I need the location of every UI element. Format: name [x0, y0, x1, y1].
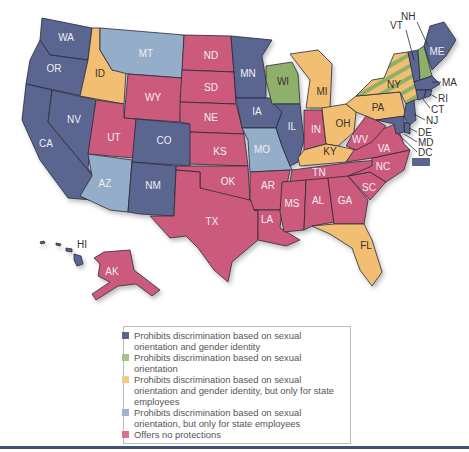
- label-SC: SC: [362, 182, 376, 193]
- legend-swatch-icon: [122, 332, 129, 339]
- label-NC: NC: [376, 161, 390, 172]
- label-TN: TN: [312, 167, 325, 178]
- label-CT: CT: [431, 104, 444, 115]
- label-WI: WI: [277, 76, 289, 87]
- label-PA: PA: [372, 102, 385, 113]
- label-KS: KS: [213, 146, 227, 157]
- label-MO: MO: [254, 144, 270, 155]
- label-CA: CA: [39, 138, 53, 149]
- label-MN: MN: [240, 68, 256, 79]
- label-ME: ME: [430, 46, 445, 57]
- map-legend: Prohibits discrimination based on sexual…: [123, 326, 351, 444]
- label-SD: SD: [204, 82, 218, 93]
- label-MI: MI: [316, 86, 327, 97]
- label-NJ: NJ: [426, 115, 438, 126]
- legend-item-orientation-only: Prohibits discrimination based on sexual…: [142, 352, 346, 374]
- label-NY: NY: [387, 79, 401, 90]
- legend-label: Offers no protections: [134, 429, 221, 440]
- label-WY: WY: [145, 92, 161, 103]
- legend-label: Prohibits discrimination based on sexual…: [134, 374, 346, 407]
- label-UT: UT: [107, 132, 120, 143]
- label-CO: CO: [157, 135, 172, 146]
- legend-swatch-icon: [122, 431, 129, 438]
- label-OK: OK: [221, 176, 236, 187]
- label-AR: AR: [261, 180, 275, 191]
- state-AK: [92, 250, 160, 300]
- label-LA: LA: [261, 214, 274, 225]
- legend-label: Prohibits discrimination based on sexual…: [134, 330, 346, 352]
- label-OR: OR: [47, 63, 62, 74]
- label-MT: MT: [139, 48, 153, 59]
- legend-label: Prohibits discrimination based on sexual…: [134, 352, 346, 374]
- label-GA: GA: [338, 195, 353, 206]
- legend-item-orientation-and-gender: Prohibits discrimination based on sexual…: [142, 330, 346, 352]
- legend-item-no-protections: Offers no protections: [142, 429, 346, 440]
- label-RI: RI: [438, 93, 448, 104]
- label-IA: IA: [252, 106, 262, 117]
- legend-label: Prohibits discrimination based on sexual…: [134, 407, 346, 429]
- label-AK: AK: [105, 266, 119, 277]
- label-IL: IL: [288, 121, 297, 132]
- label-AZ: AZ: [99, 178, 112, 189]
- legend-item-state-employees-orientation-gender: Prohibits discrimination based on sexual…: [142, 374, 346, 407]
- label-HI: HI: [77, 239, 87, 250]
- state-NJ: [404, 100, 416, 126]
- label-IN: IN: [311, 124, 321, 135]
- legend-item-state-employees-orientation: Prohibits discrimination based on sexual…: [142, 407, 346, 429]
- legend-swatch-icon: [122, 354, 129, 361]
- label-NE: NE: [204, 112, 218, 123]
- label-OH: OH: [336, 118, 351, 129]
- label-FL: FL: [360, 240, 372, 251]
- label-AL: AL: [312, 195, 325, 206]
- label-VA: VA: [378, 143, 391, 154]
- legend-swatch-icon: [122, 409, 129, 416]
- legend-swatch-icon: [122, 376, 129, 383]
- label-MS: MS: [285, 198, 300, 209]
- dc-swatch: [412, 158, 430, 166]
- state-FL: [312, 224, 382, 286]
- label-WV: WV: [352, 134, 368, 145]
- bottom-divider: [0, 446, 469, 449]
- label-NV: NV: [67, 114, 81, 125]
- label-KY: KY: [323, 146, 337, 157]
- label-WA: WA: [58, 32, 74, 43]
- label-NM: NM: [145, 180, 161, 191]
- label-DC: DC: [418, 147, 432, 158]
- label-MA: MA: [442, 77, 457, 88]
- label-NH: NH: [401, 11, 415, 22]
- label-ID: ID: [95, 68, 105, 79]
- label-ND: ND: [204, 50, 218, 61]
- us-state-map: WA OR CA NV ID MT WY UT CO AZ NM ND SD N…: [0, 0, 469, 310]
- label-VT: VT: [390, 20, 403, 31]
- label-TX: TX: [206, 216, 219, 227]
